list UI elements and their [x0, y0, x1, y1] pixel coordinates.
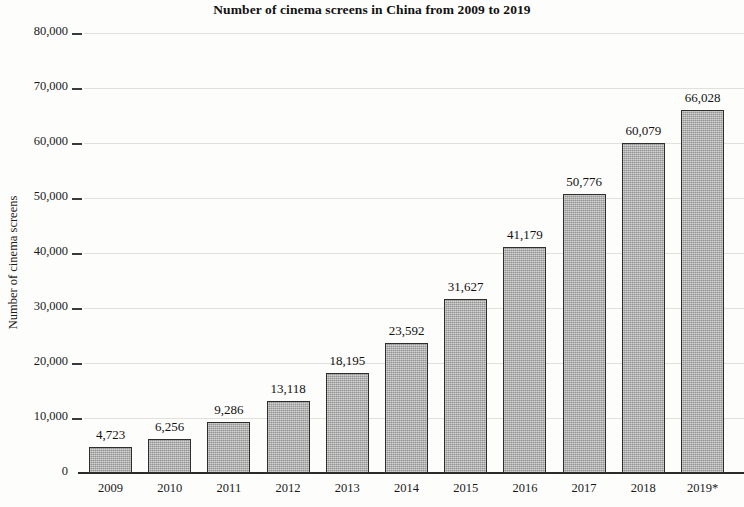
y-axis-tick-label: 20,000	[0, 354, 68, 369]
bar-value-label: 41,179	[489, 227, 560, 243]
bar	[444, 299, 487, 473]
bar	[622, 143, 665, 473]
bar-value-label: 66,028	[667, 90, 738, 106]
y-axis-tick-label: 30,000	[0, 299, 68, 314]
gridline	[84, 33, 744, 34]
bar	[267, 401, 310, 473]
y-axis-tick-label: 40,000	[0, 244, 68, 259]
bar	[326, 373, 369, 473]
bar	[385, 343, 428, 473]
y-axis-tick	[72, 363, 82, 365]
y-axis-tick	[72, 198, 82, 200]
bar	[148, 439, 191, 473]
y-axis-tick-label: 60,000	[0, 134, 68, 149]
bar	[681, 110, 724, 473]
y-axis-tick-label: 10,000	[0, 409, 68, 424]
bar-value-label: 9,286	[193, 402, 264, 418]
gridline	[84, 88, 744, 89]
bar-value-label: 18,195	[312, 353, 383, 369]
y-axis-tick	[72, 88, 82, 90]
bar-value-label: 60,079	[608, 123, 679, 139]
y-axis-tick	[72, 143, 82, 145]
y-axis-tick-label: 50,000	[0, 189, 68, 204]
bar	[207, 422, 250, 473]
bar	[89, 447, 132, 473]
bar-value-label: 31,627	[430, 279, 501, 295]
bar-value-label: 50,776	[549, 174, 620, 190]
y-axis-tick	[72, 253, 82, 255]
plot-area: 010,00020,00030,00040,00050,00060,00070,…	[0, 0, 744, 507]
y-axis-tick-label: 0	[0, 464, 68, 479]
bar	[563, 194, 606, 473]
y-axis-tick	[72, 418, 82, 420]
bar	[503, 247, 546, 473]
x-axis-tick-label: 2019*	[667, 481, 738, 496]
bar-value-label: 23,592	[371, 323, 442, 339]
y-axis-tick	[72, 308, 82, 310]
bar-value-label: 13,118	[253, 381, 324, 397]
y-axis-tick-label: 70,000	[0, 79, 68, 94]
y-axis-tick	[72, 33, 82, 35]
bar-value-label: 6,256	[134, 419, 205, 435]
y-axis-tick-label: 80,000	[0, 24, 68, 39]
